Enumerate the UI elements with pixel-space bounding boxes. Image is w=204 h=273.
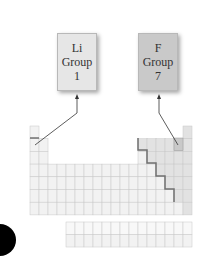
- element-cell: [30, 202, 39, 215]
- element-cell: [84, 164, 93, 177]
- element-cell: [183, 164, 192, 177]
- element-cell: [147, 235, 156, 248]
- element-cell: [120, 202, 129, 215]
- element-cell: [93, 177, 102, 190]
- element-cell: [93, 202, 102, 215]
- element-cell: [120, 222, 129, 235]
- element-cell: [66, 202, 75, 215]
- element-cell: [75, 222, 84, 235]
- element-cell: [75, 177, 84, 190]
- element-cell: [120, 177, 129, 190]
- element-cell: [66, 177, 75, 190]
- periodic-table-cells: [30, 126, 192, 215]
- element-cell: [75, 190, 84, 203]
- element-cell: [111, 202, 120, 215]
- element-cell: [75, 235, 84, 248]
- element-cell: [183, 139, 192, 152]
- element-cell: [156, 235, 165, 248]
- element-cell: [147, 151, 156, 164]
- element-cell: [57, 190, 66, 203]
- element-cell: [93, 222, 102, 235]
- f-arrow-head-icon: [157, 94, 161, 99]
- element-cell: [165, 139, 174, 152]
- periodic-table: [0, 0, 204, 273]
- element-cell: [183, 126, 192, 139]
- element-cell: [120, 190, 129, 203]
- element-cell: [165, 235, 174, 248]
- element-cell: [174, 222, 183, 235]
- element-cell: [30, 164, 39, 177]
- element-cell: [165, 202, 174, 215]
- element-cell: [183, 190, 192, 203]
- element-cell: [147, 139, 156, 152]
- element-cell: [93, 235, 102, 248]
- element-cell: [129, 177, 138, 190]
- element-cell: [39, 164, 48, 177]
- element-cell: [174, 190, 183, 203]
- element-cell: [30, 151, 39, 164]
- element-cell: [75, 202, 84, 215]
- element-cell: [111, 164, 120, 177]
- element-cell: [165, 190, 174, 203]
- element-cell: [165, 177, 174, 190]
- element-cell: [138, 190, 147, 203]
- element-cell: [156, 202, 165, 215]
- element-cell: [57, 177, 66, 190]
- element-cell: [183, 222, 192, 235]
- element-cell: [102, 202, 111, 215]
- element-cell: [183, 235, 192, 248]
- element-cell: [120, 164, 129, 177]
- element-cell: [165, 151, 174, 164]
- element-cell: [156, 151, 165, 164]
- element-cell: [57, 164, 66, 177]
- element-cell: [57, 202, 66, 215]
- element-cell: [48, 164, 57, 177]
- element-cell: [174, 151, 183, 164]
- element-cell: [138, 177, 147, 190]
- element-cell: [84, 235, 93, 248]
- element-cell: [93, 164, 102, 177]
- element-cell: [66, 164, 75, 177]
- element-cell: [48, 202, 57, 215]
- element-cell: [138, 202, 147, 215]
- element-cell: [165, 164, 174, 177]
- element-cell: [183, 151, 192, 164]
- element-cell: [129, 202, 138, 215]
- element-cell: [75, 164, 84, 177]
- element-cell: [39, 177, 48, 190]
- element-cell: [84, 222, 93, 235]
- element-cell: [147, 202, 156, 215]
- li-arrow: [35, 98, 77, 145]
- element-cell: [138, 235, 147, 248]
- element-cell: [39, 190, 48, 203]
- element-cell: [84, 202, 93, 215]
- element-cell: [138, 151, 147, 164]
- element-cell: [30, 177, 39, 190]
- element-cell: [39, 151, 48, 164]
- element-cell: [174, 164, 183, 177]
- element-cell: [156, 177, 165, 190]
- element-cell: [174, 235, 183, 248]
- element-cell: [84, 190, 93, 203]
- element-cell: [129, 164, 138, 177]
- element-cell: [66, 222, 75, 235]
- element-cell: [66, 235, 75, 248]
- element-cell: [174, 202, 183, 215]
- element-cell: [102, 222, 111, 235]
- element-cell: [183, 177, 192, 190]
- element-cell: [183, 202, 192, 215]
- element-cell: [48, 190, 57, 203]
- element-cell: [147, 164, 156, 177]
- element-cell: [111, 190, 120, 203]
- element-cell: [39, 202, 48, 215]
- element-cell: [120, 235, 129, 248]
- element-cell: [30, 190, 39, 203]
- element-cell: [156, 190, 165, 203]
- element-cell: [66, 190, 75, 203]
- element-cell: [84, 177, 93, 190]
- element-cell: [129, 235, 138, 248]
- element-cell: [93, 190, 102, 203]
- element-cell: [48, 177, 57, 190]
- element-cell: [30, 126, 39, 139]
- element-cell: [147, 222, 156, 235]
